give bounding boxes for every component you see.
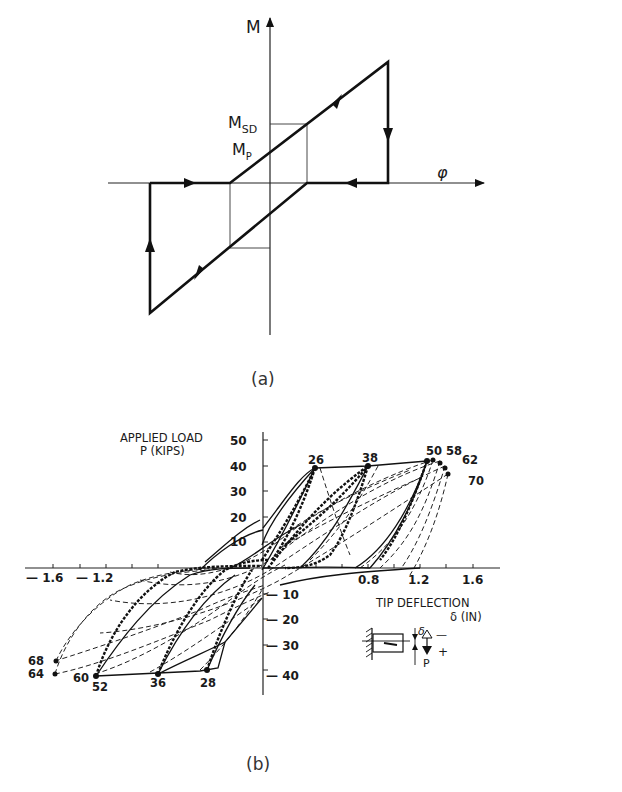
peak-labels: 26 38 50 58 62 70 68 64 60 52 36 28 [28,444,484,694]
svg-text:38: 38 [362,451,378,465]
arrow-right-icon [184,178,196,188]
deflection-axis-title-2: δ (IN) [450,610,482,624]
svg-text:26: 26 [308,453,324,467]
svg-text:64: 64 [28,667,44,681]
svg-text:1.2: 1.2 [408,573,429,587]
svg-text:20: 20 [230,511,247,525]
svg-text:28: 28 [200,676,216,690]
svg-text:1.6: 1.6 [462,573,483,587]
inset-plus: + [438,645,448,659]
svg-text:60: 60 [73,671,89,685]
inset-minus: — [436,628,447,641]
svg-text:62: 62 [462,453,478,467]
svg-text:— 20: — 20 [266,613,299,627]
arrow-down-icon [383,128,393,142]
dashed-cycles [55,460,448,674]
msd-label: MSD [228,113,257,136]
load-axis-title-1: APPLIED LOAD [120,431,203,445]
svg-text:36: 36 [150,676,166,690]
caption-a: (a) [251,369,275,389]
svg-text:— 1.2: — 1.2 [76,571,113,585]
direction-arrows [145,94,393,280]
svg-text:— 10: — 10 [266,588,299,602]
mp-label: MP [232,140,252,162]
caption-b: (b) [246,754,270,774]
load-arrow-down-solid-icon [422,646,432,655]
svg-text:0.8: 0.8 [358,573,379,587]
figure-b: 50 40 30 20 10 — 10 — 20 — 30 — 40 — 1.6… [25,431,500,774]
deflection-axis-title-1: TIP DEFLECTION [375,596,470,610]
arrow-upright-icon [332,94,342,109]
svg-text:40: 40 [230,460,247,474]
svg-text:— 30: — 30 [266,639,299,653]
svg-text:68: 68 [28,654,44,668]
load-axis-title-2: P (KIPS) [140,444,185,458]
inset-load: P [423,657,430,670]
svg-text:— 40: — 40 [266,669,299,683]
hysteresis-loop [150,62,388,313]
figure-canvas: M φ MSD MP (a) 50 40 [0,0,622,792]
svg-text:50: 50 [230,434,247,448]
svg-text:30: 30 [230,485,247,499]
arrow-up-icon [145,238,155,252]
svg-text:50: 50 [426,444,442,458]
inset-delta: δ [418,625,425,638]
figure-a: M φ MSD MP (a) [108,17,484,389]
arrow-downleft-icon [194,265,204,280]
phi-axis-label: φ [437,163,448,182]
svg-text:— 1.6: — 1.6 [26,571,63,585]
svg-text:58: 58 [446,444,462,458]
y-tick-labels: 50 40 30 20 10 — 10 — 20 — 30 — 40 [230,434,299,683]
svg-text:52: 52 [92,680,108,694]
delta-arrow-up-icon [412,644,418,650]
arrow-left-icon [345,178,357,188]
svg-text:70: 70 [468,474,484,488]
m-axis-label: M [246,17,261,37]
x-tick-labels: — 1.6 — 1.2 0.8 1.2 1.6 [26,571,483,587]
